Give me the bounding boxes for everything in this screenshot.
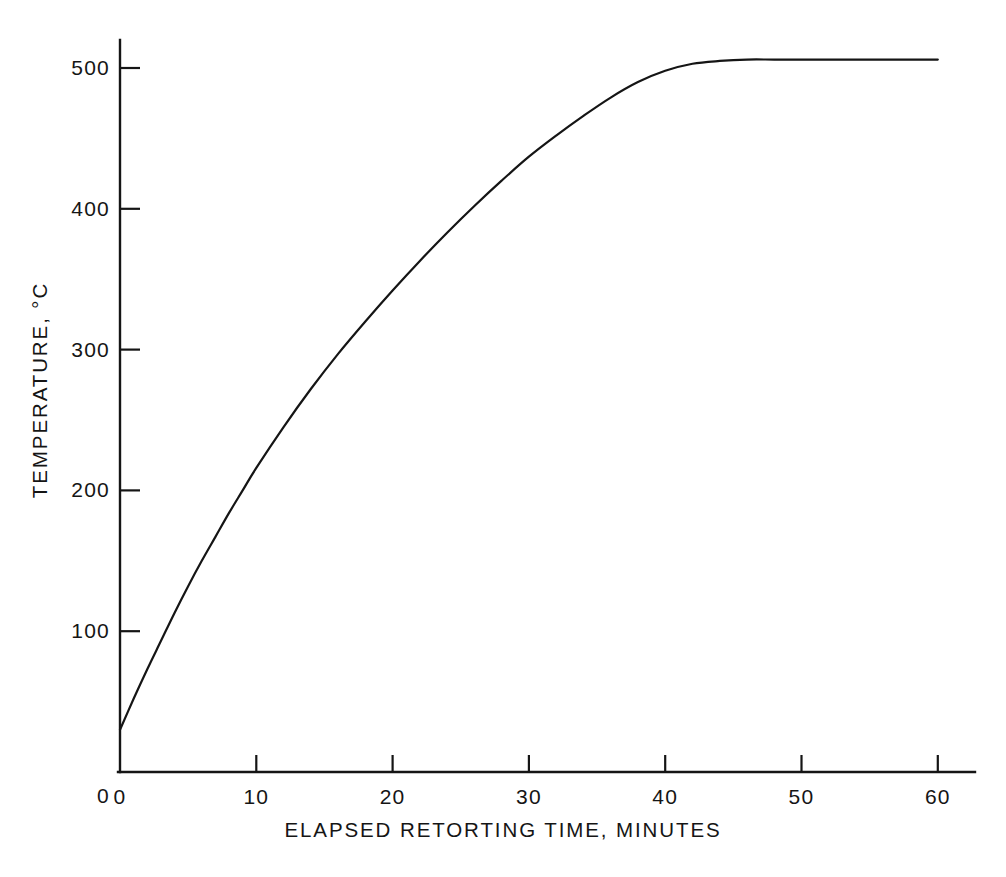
- y-tick-label: 500: [71, 56, 110, 80]
- x-tick-label: 40: [652, 785, 678, 809]
- y-tick-label: 200: [71, 478, 110, 502]
- axes-group: [118, 40, 975, 772]
- x-tick-label: 60: [925, 785, 951, 809]
- y-tick-label: 100: [71, 619, 110, 643]
- x-tick-label: 20: [380, 785, 406, 809]
- x-axis-title: ELAPSED RETORTING TIME, MINUTES: [0, 818, 1006, 842]
- y-axis-ticks: [120, 68, 140, 631]
- plot-area: [0, 0, 1006, 877]
- chart-figure: 0102030405060 0100200300400500 ELAPSED R…: [0, 0, 1006, 877]
- x-axis-ticks: [256, 755, 938, 772]
- x-tick-label: 0: [114, 785, 127, 809]
- y-tick-label: 300: [71, 338, 110, 362]
- x-tick-label: 30: [516, 785, 542, 809]
- x-tick-label: 10: [243, 785, 269, 809]
- data-line-retort-temperature: [120, 59, 938, 729]
- y-tick-label: 0: [97, 784, 110, 808]
- y-tick-label: 400: [71, 197, 110, 221]
- y-axis-title: TEMPERATURE, °C: [28, 282, 52, 498]
- x-tick-label: 50: [789, 785, 815, 809]
